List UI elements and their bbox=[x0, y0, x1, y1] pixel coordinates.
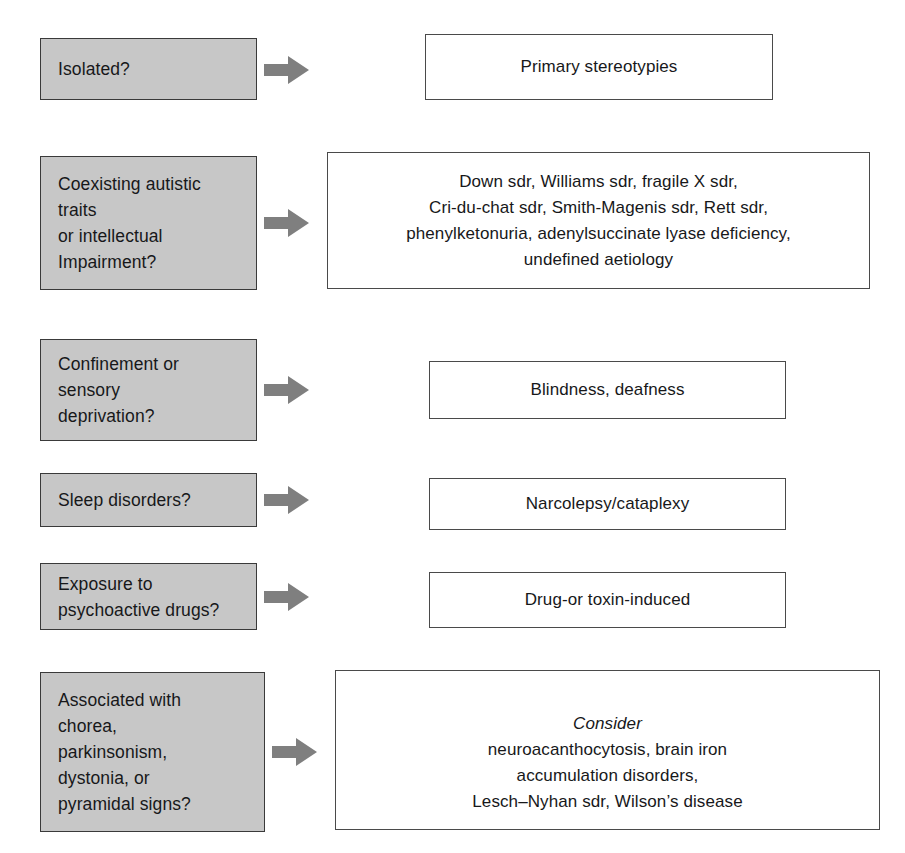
right-arrow-icon bbox=[264, 582, 310, 612]
answer-text: Considerneuroacanthocytosis, brain iron … bbox=[472, 685, 742, 815]
question-box-sleep-disorders[interactable]: Sleep disorders? bbox=[40, 473, 257, 527]
answer-box-blindness-deafness[interactable]: Blindness, deafness bbox=[429, 361, 786, 419]
answer-box-syndromes[interactable]: Down sdr, Williams sdr, fragile X sdr, C… bbox=[327, 152, 870, 289]
right-arrow-icon bbox=[264, 208, 310, 238]
answer-italic-lead: Consider bbox=[472, 711, 742, 737]
question-box-psychoactive-drug-exposure[interactable]: Exposure to psychoactive drugs? bbox=[40, 563, 257, 630]
question-text: Coexisting autistic traits or intellectu… bbox=[58, 171, 201, 275]
answer-text: Blindness, deafness bbox=[530, 377, 684, 403]
answer-box-consider-diagnoses[interactable]: Considerneuroacanthocytosis, brain iron … bbox=[335, 670, 880, 830]
question-box-isolated[interactable]: Isolated? bbox=[40, 38, 257, 100]
question-text: Associated with chorea, parkinsonism, dy… bbox=[58, 687, 191, 817]
answer-text: Primary stereotypies bbox=[521, 54, 678, 80]
right-arrow-icon bbox=[264, 55, 310, 85]
question-text: Sleep disorders? bbox=[58, 487, 191, 513]
question-text: Isolated? bbox=[58, 56, 130, 82]
question-text: Confinement or sensory deprivation? bbox=[58, 351, 179, 429]
right-arrow-icon bbox=[264, 375, 310, 405]
right-arrow-icon bbox=[272, 737, 318, 767]
answer-text: Drug-or toxin-induced bbox=[525, 587, 691, 613]
answer-box-primary-stereotypies[interactable]: Primary stereotypies bbox=[425, 34, 773, 100]
question-box-associated-movement-disorders[interactable]: Associated with chorea, parkinsonism, dy… bbox=[40, 672, 265, 832]
stereotypies-differential-diagnosis-flowchart: Isolated? Primary stereotypies Coexistin… bbox=[0, 0, 905, 853]
question-box-coexisting-autistic-traits[interactable]: Coexisting autistic traits or intellectu… bbox=[40, 156, 257, 290]
question-text: Exposure to psychoactive drugs? bbox=[58, 571, 219, 623]
answer-box-drug-or-toxin-induced[interactable]: Drug-or toxin-induced bbox=[429, 572, 786, 628]
answer-box-narcolepsy-cataplexy[interactable]: Narcolepsy/cataplexy bbox=[429, 478, 786, 530]
answer-body: neuroacanthocytosis, brain iron accumula… bbox=[472, 740, 742, 811]
answer-text: Narcolepsy/cataplexy bbox=[526, 491, 690, 517]
answer-text: Down sdr, Williams sdr, fragile X sdr, C… bbox=[406, 169, 791, 273]
right-arrow-icon bbox=[264, 485, 310, 515]
question-box-confinement-sensory-deprivation[interactable]: Confinement or sensory deprivation? bbox=[40, 339, 257, 441]
